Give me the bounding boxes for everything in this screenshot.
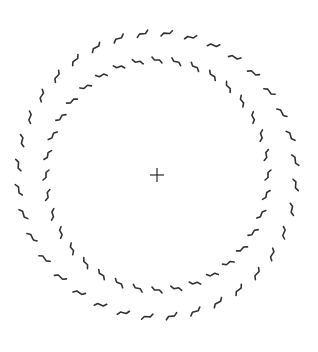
inner-ring-segment (60, 227, 62, 239)
illusion-stimulus (0, 0, 318, 352)
inner-ring-segment (99, 269, 105, 279)
outer-ring-segment (293, 179, 298, 190)
inner-ring-segment (223, 261, 234, 264)
outer-ring-segment (185, 36, 197, 39)
outer-ring-segment (54, 275, 66, 279)
inner-ring-segment (207, 273, 219, 276)
inner-ring-segment (96, 74, 108, 77)
inner-ring-segment (46, 190, 50, 201)
outer-ring-segment (166, 313, 176, 320)
outer-ring-segment (29, 111, 31, 123)
outer-ring-segment (73, 291, 85, 294)
outer-ring-segment (292, 155, 299, 165)
outer-ring-segment (92, 42, 99, 52)
inner-ring-segment (133, 284, 142, 292)
outer-ring-segment (94, 303, 106, 305)
inner-ring-segment (56, 115, 66, 121)
inner-ring-segment (263, 191, 271, 200)
inner-ring-segment (265, 170, 271, 180)
outer-ring-segment (142, 314, 153, 319)
inner-ring-segment (189, 282, 200, 284)
inner-ring-segment (237, 247, 248, 251)
inner-ring-segment (84, 258, 88, 269)
inner-ring-segment (240, 95, 243, 107)
outer-ring-segment (264, 89, 275, 94)
outer-ring-segment (27, 234, 37, 241)
outer-ring-segment (19, 210, 28, 219)
inner-ring-segment (80, 85, 91, 88)
inner-ring-segment (52, 209, 54, 220)
outer-ring-segment (207, 44, 219, 46)
outer-ring-segment (277, 109, 287, 116)
inner-ring-segment (172, 58, 181, 66)
outer-ring-segment (21, 135, 24, 147)
outer-ring-segment (137, 30, 147, 37)
outer-ring-segment (214, 297, 221, 307)
inner-ring-segment (248, 230, 258, 236)
outer-ring-segment (117, 311, 129, 314)
outer-ring-segment (191, 307, 200, 316)
outer-ring-segment (248, 71, 260, 75)
inner-ring-segment (191, 62, 198, 71)
inner-ring-segment (252, 112, 254, 124)
outer-ring-segment (271, 248, 274, 260)
inner-ring-segment (113, 66, 124, 68)
outer-ring-segment (40, 89, 43, 101)
inner-ring-segment (264, 150, 268, 161)
inner-ring-segment (70, 243, 73, 255)
inner-ring-segment (257, 211, 266, 218)
inner-ring-segment (66, 99, 77, 103)
inner-ring-segment (44, 151, 52, 160)
outer-ring-segment (229, 56, 241, 59)
outer-ring-segment (286, 131, 295, 140)
inner-ring-segment (43, 170, 49, 180)
outer-ring-segment (290, 203, 293, 215)
inner-ring-segment (132, 60, 143, 64)
outer-ring-segment (39, 256, 50, 261)
outer-ring-segment (283, 227, 285, 239)
inner-ring-segment (115, 278, 122, 287)
inner-ring-segment (226, 81, 230, 92)
outer-ring-segment (73, 54, 78, 65)
inner-ring-segment (152, 57, 162, 63)
outer-ring-segment (15, 185, 22, 195)
outer-ring-segment (255, 268, 259, 280)
inner-ring-segment (152, 287, 162, 293)
inner-ring-segment (260, 130, 262, 141)
inner-ring-segment (48, 132, 57, 139)
fixation-cross-icon (150, 168, 164, 182)
outer-ring-segment (236, 284, 241, 295)
inner-ring-segment (171, 286, 182, 290)
outer-ring-segment (55, 70, 59, 82)
outer-ring-segment (114, 34, 123, 43)
inner-ring-segment (210, 70, 216, 80)
outer-ring-segment (161, 31, 172, 36)
outer-ring-segment (16, 159, 21, 170)
